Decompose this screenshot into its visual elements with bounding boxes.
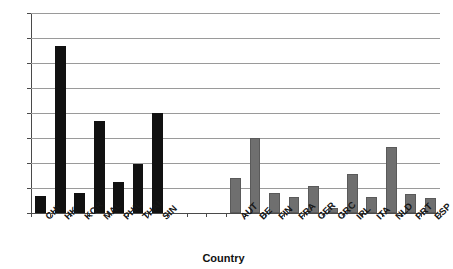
bar-chi [35, 196, 46, 214]
bar-series-group [31, 13, 440, 213]
bar-hk [55, 46, 66, 214]
x-axis-title: Country [0, 252, 447, 264]
plot-area [31, 13, 440, 213]
bar-nld [386, 147, 397, 213]
x-axis-tick-labels: CHIHKKORMALPHILTHAISINAUTBEFINFRAGERGRCI… [31, 214, 440, 254]
bar-sin [152, 113, 163, 213]
bar-aut [230, 178, 241, 213]
